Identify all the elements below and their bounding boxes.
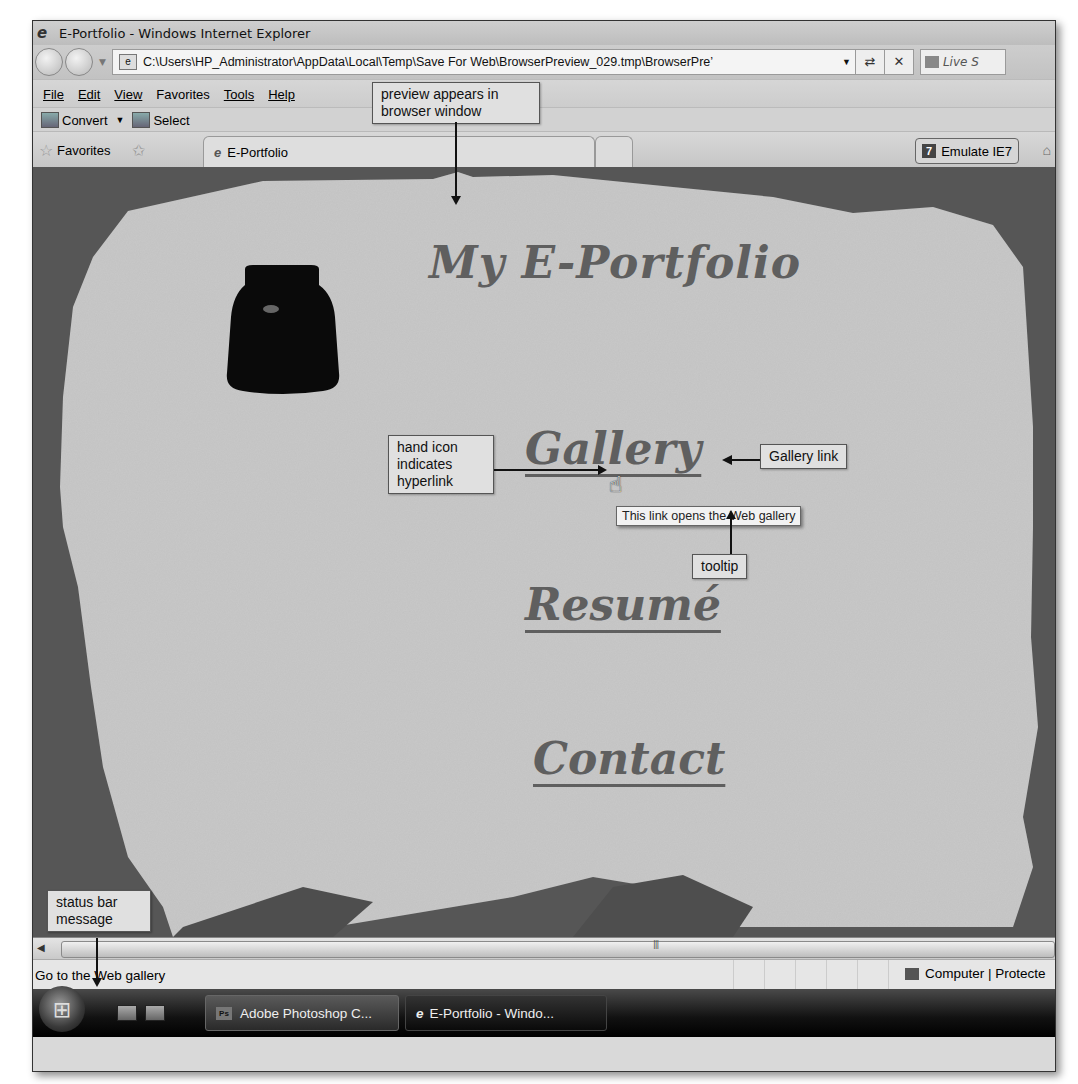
refresh-icon: ⇄ (864, 54, 875, 69)
ie7-badge-icon: 7 (922, 144, 936, 158)
contact-link[interactable]: Contact (533, 733, 725, 784)
convert-dropdown-icon[interactable]: ▼ (116, 115, 125, 125)
callout-tooltip: tooltip (692, 554, 747, 579)
security-zone[interactable]: Computer | Protecte (905, 966, 1046, 981)
callout-arrow (455, 122, 457, 198)
stop-icon: ✕ (893, 54, 904, 69)
computer-zone-icon (905, 968, 919, 980)
arrowhead-icon (726, 510, 736, 519)
tab-label: E-Portfolio (227, 145, 288, 160)
arrowhead-icon (598, 465, 607, 475)
taskbar-ie[interactable]: e E-Portfolio - Windo... (405, 995, 607, 1031)
resume-link[interactable]: Resumé (525, 579, 721, 630)
arrowhead-icon (722, 455, 732, 465)
live-search-icon (925, 56, 939, 68)
switch-windows-icon[interactable] (145, 1005, 165, 1021)
back-button[interactable] (35, 48, 63, 76)
scrollbar-thumb[interactable] (61, 941, 1055, 958)
add-to-favorites-icon[interactable]: ✩ (132, 141, 145, 160)
windows-logo-icon: ⊞ (53, 997, 71, 1022)
callout-status-bar: status bar message (47, 890, 151, 932)
tab-e-portfolio[interactable]: e E-Portfolio (203, 136, 595, 167)
start-button[interactable]: ⊞ (39, 986, 85, 1032)
stop-button[interactable]: ✕ (885, 49, 914, 75)
menu-bar: File Edit View Favorites Tools Help (33, 79, 1055, 108)
select-icon (132, 112, 150, 128)
window-title: E-Portfolio - Windows Internet Explorer (59, 26, 310, 41)
zone-label: Computer | Protecte (925, 966, 1046, 981)
horizontal-scrollbar[interactable]: ◀ ||| (33, 937, 1055, 960)
taskbar-label: Adobe Photoshop C... (240, 1006, 372, 1021)
arrowhead-icon (451, 196, 461, 205)
emulate-ie7-button[interactable]: 7 Emulate IE7 (915, 138, 1019, 164)
search-placeholder: Live S (943, 50, 979, 74)
photoshop-icon: Ps (216, 1007, 232, 1020)
arrowhead-icon (92, 978, 102, 987)
forward-button[interactable] (65, 48, 93, 76)
convert-button[interactable]: Convert (62, 113, 108, 128)
ie-logo-icon: e (37, 25, 53, 41)
address-url[interactable]: C:\Users\HP_Administrator\AppData\Local\… (143, 55, 833, 69)
callout-preview: preview appears in browser window (372, 82, 540, 124)
menu-file[interactable]: File (43, 87, 64, 102)
address-dropdown-icon[interactable]: ▼ (842, 57, 851, 67)
page-title: My E-Portfolio (429, 237, 801, 288)
callout-arrow (494, 469, 600, 471)
callout-arrow (96, 938, 98, 980)
page-content: My E-Portfolio Gallery ☝ This link opens… (33, 167, 1055, 937)
favorites-button[interactable]: Favorites (57, 143, 110, 158)
callout-arrow (730, 518, 732, 554)
search-box[interactable]: Live S (920, 49, 1006, 75)
favorites-bar: ☆ Favorites ✩ e E-Portfolio 7 Emulate IE… (33, 131, 1055, 169)
ie-window: e E-Portfolio - Windows Internet Explore… (32, 20, 1056, 1072)
tab-ie-icon: e (214, 145, 221, 160)
gallery-link[interactable]: Gallery (525, 423, 701, 474)
convert-icon (41, 112, 59, 128)
command-bar: Convert ▼ Select (33, 107, 1055, 132)
menu-edit[interactable]: Edit (78, 87, 100, 102)
show-desktop-icon[interactable] (117, 1005, 137, 1021)
home-icon[interactable]: ⌂ (1043, 142, 1051, 158)
callout-gallery-link: Gallery link (760, 444, 847, 469)
gallery-tooltip: This link opens the Web gallery (616, 506, 801, 526)
taskbar-photoshop[interactable]: Ps Adobe Photoshop C... (205, 995, 399, 1031)
callout-hand-icon: hand icon indicates hyperlink (388, 435, 494, 494)
menu-view[interactable]: View (114, 87, 142, 102)
hand-cursor-icon: ☝ (609, 472, 622, 497)
menu-favorites[interactable]: Favorites (156, 87, 209, 102)
ink-jar-image (223, 265, 341, 395)
emulate-label: Emulate IE7 (941, 144, 1012, 159)
select-button[interactable]: Select (153, 113, 189, 128)
page-icon: e (119, 54, 137, 70)
callout-arrow (732, 459, 760, 461)
address-bar[interactable]: e C:\Users\HP_Administrator\AppData\Loca… (112, 49, 856, 75)
title-bar: e E-Portfolio - Windows Internet Explore… (33, 21, 1055, 45)
status-bar: Go to the Web gallery Computer | Protect… (33, 959, 1055, 990)
ie-taskbar-icon: e (416, 1006, 424, 1021)
recent-pages-dropdown-icon[interactable]: ▼ (99, 57, 106, 67)
taskbar-label: E-Portfolio - Windo... (430, 1006, 555, 1021)
menu-help[interactable]: Help (268, 87, 295, 102)
menu-tools[interactable]: Tools (224, 87, 254, 102)
windows-taskbar: ⊞ Ps Adobe Photoshop C... e E-Portfolio … (33, 989, 1055, 1037)
favorites-star-icon: ☆ (39, 141, 53, 160)
status-panes (733, 960, 919, 990)
new-tab-button[interactable] (595, 136, 633, 167)
scrollbar-grip-icon: ||| (653, 940, 658, 949)
refresh-button[interactable]: ⇄ (856, 49, 885, 75)
navigation-bar: ▼ e C:\Users\HP_Administrator\AppData\Lo… (33, 45, 1055, 79)
scroll-left-icon[interactable]: ◀ (37, 942, 45, 953)
